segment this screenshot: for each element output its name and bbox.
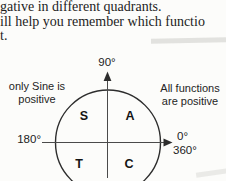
annotation-right-line-2: are positive xyxy=(162,95,218,107)
textbook-page-crop: gative in different quadrants. ill help … xyxy=(0,0,226,181)
annotation-left-line-2: positive xyxy=(18,93,55,105)
label-0-degrees: 0° xyxy=(177,130,188,142)
quadrant-letter-t: T xyxy=(71,157,87,171)
right-arrowhead-icon xyxy=(164,139,173,147)
annotation-right-line-1: All functions xyxy=(160,82,219,94)
quadrant-letter-s: S xyxy=(76,109,92,123)
label-180-degrees: 180° xyxy=(10,133,41,145)
label-360-degrees: 360° xyxy=(173,144,197,156)
quadrant-letter-a: A xyxy=(122,109,138,123)
annotation-only-sine-positive: only Sine is positive xyxy=(5,80,69,105)
up-arrowhead-icon xyxy=(104,72,112,82)
label-90-degrees: 90° xyxy=(94,56,120,68)
annotation-all-functions-positive: All functions are positive xyxy=(154,82,226,107)
quadrant-letter-c: C xyxy=(121,157,137,171)
annotation-left-line-1: only Sine is xyxy=(9,80,65,92)
